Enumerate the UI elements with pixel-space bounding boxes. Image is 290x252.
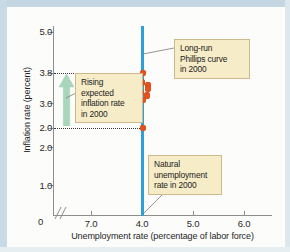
chart-figure: 5.0 3.8 3.0 2.0 2.0 1.0 7.0 4.0 5.0 6.0 …: [0, 0, 290, 252]
callout-line: Long-run: [180, 43, 245, 54]
callout-line: in 2000: [81, 109, 138, 120]
callout-natural-unemployment-rate: Natural unemployment rate in 2000: [148, 155, 222, 195]
callout-line: in 2000: [180, 64, 245, 75]
data-point: [145, 85, 151, 92]
callout-line: inflation rate: [81, 98, 138, 109]
callout-line: unemployment: [154, 170, 217, 181]
callout-line: Phillips curve: [180, 54, 245, 65]
callout-line: expected: [81, 88, 138, 99]
callout-rising-expected-inflation: Rising expected inflation rate in 2000: [75, 73, 143, 123]
callout-line: rate in 2000: [154, 180, 217, 191]
plot-area: 5.0 3.8 3.0 2.0 2.0 1.0 7.0 4.0 5.0 6.0 …: [0, 0, 290, 252]
callout-long-run-phillips-curve: Long-run Phillips curve in 2000: [174, 39, 250, 79]
callout-line: Natural: [154, 159, 217, 170]
callout-line: Rising: [81, 77, 138, 88]
